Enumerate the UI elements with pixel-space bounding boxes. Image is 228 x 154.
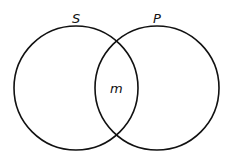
set-s-label: S [72, 11, 80, 26]
venn-diagram: S P m [0, 0, 228, 154]
intersection-label: m [110, 81, 123, 96]
set-p-label: P [153, 11, 161, 26]
